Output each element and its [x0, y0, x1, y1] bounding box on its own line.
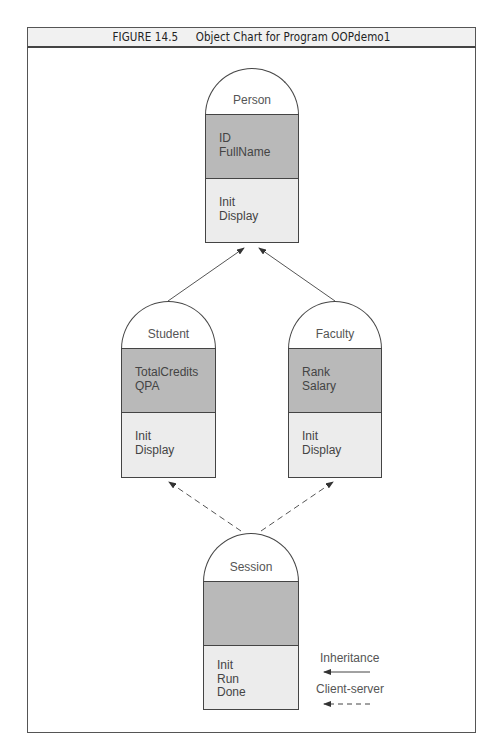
attribute: TotalCredits — [135, 366, 198, 380]
method: Display — [135, 444, 174, 458]
object-name: Person — [206, 93, 298, 107]
inheritance-arrow-faculty-person — [259, 248, 335, 301]
attributes-section: ID FullName — [205, 114, 299, 179]
object-faculty: Faculty Rank Salary Init Display — [288, 301, 382, 478]
object-name-cap: Faculty — [288, 301, 382, 349]
object-name: Session — [204, 560, 298, 574]
attributes-section: Rank Salary — [288, 348, 382, 413]
object-name: Student — [122, 327, 215, 341]
legend-client-server-label: Client-server — [316, 682, 384, 696]
client-server-arrow-session-faculty — [261, 482, 333, 531]
attribute: FullName — [219, 146, 270, 160]
object-name: Faculty — [289, 327, 381, 341]
attribute: Rank — [302, 366, 336, 380]
attributes-section: TotalCredits QPA — [121, 348, 216, 413]
object-name-cap: Student — [121, 301, 216, 349]
attributes-section — [203, 581, 299, 646]
inheritance-arrow-student-person — [168, 248, 244, 301]
object-person: Person ID FullName Init Display — [205, 68, 299, 243]
method: Display — [219, 210, 258, 224]
method: Init — [219, 196, 258, 210]
attribute: QPA — [135, 380, 198, 394]
attribute: ID — [219, 132, 270, 146]
methods-section: Init Display — [288, 413, 382, 478]
method: Display — [302, 444, 341, 458]
methods-section: Init Display — [121, 413, 216, 478]
method: Done — [217, 686, 246, 700]
attribute: Salary — [302, 380, 336, 394]
method: Init — [302, 430, 341, 444]
methods-section: Init Run Done — [203, 646, 299, 710]
object-session: Session Init Run Done — [203, 533, 299, 710]
method: Init — [217, 659, 246, 673]
object-name-cap: Person — [205, 68, 299, 115]
method: Init — [135, 430, 174, 444]
methods-section: Init Display — [205, 179, 299, 243]
method: Run — [217, 673, 246, 687]
legend-inheritance-label: Inheritance — [320, 651, 379, 665]
client-server-arrow-session-student — [169, 482, 241, 531]
object-name-cap: Session — [203, 533, 299, 582]
object-student: Student TotalCredits QPA Init Display — [121, 301, 216, 478]
